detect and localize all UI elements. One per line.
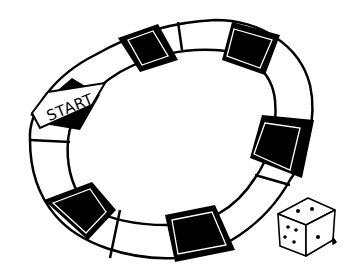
- die: [278, 198, 336, 256]
- game-board-track: START: [0, 0, 354, 279]
- board-game-illustration: START: [0, 0, 354, 279]
